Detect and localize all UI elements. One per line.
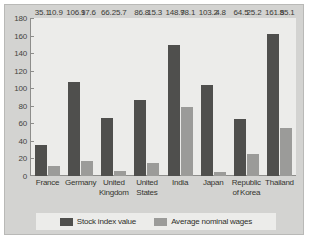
y-tick-label: 60 xyxy=(19,119,28,128)
bar-column: 5.7 xyxy=(114,18,126,176)
bar-column: 35.1 xyxy=(35,18,47,176)
y-tick-mark xyxy=(30,36,34,37)
y-tick-label: 20 xyxy=(19,154,28,163)
bar-column: 4.8 xyxy=(214,18,226,176)
bar-column: 86.8 xyxy=(134,18,146,176)
bar: 35.1 xyxy=(35,145,47,176)
y-tick-mark xyxy=(30,71,34,72)
legend-swatch xyxy=(154,218,167,226)
bar-column: 106.9 xyxy=(68,18,80,176)
y-tick-label: 100 xyxy=(14,84,27,93)
bar-column: 25.2 xyxy=(247,18,259,176)
y-tick-mark xyxy=(30,141,34,142)
bar-column: 64.5 xyxy=(234,18,246,176)
bar: 4.8 xyxy=(214,172,226,176)
bar-column: 15.3 xyxy=(147,18,159,176)
bar-value-label: 55.1 xyxy=(280,8,295,17)
bar: 64.5 xyxy=(234,119,246,176)
bar: 86.8 xyxy=(134,100,146,176)
bar-group: 103.24.8 xyxy=(197,18,230,176)
bar-column: 10.9 xyxy=(48,18,60,176)
bar-group: 106.917.6 xyxy=(64,18,97,176)
bar-value-label: 17.6 xyxy=(81,8,96,17)
y-tick-mark xyxy=(30,18,34,19)
x-axis: FranceGermanyUnitedKingdomUnitedStatesIn… xyxy=(31,178,296,197)
legend-swatch xyxy=(60,218,73,226)
bar-group: 161.855.1 xyxy=(263,18,296,176)
bar-group: 35.110.9 xyxy=(31,18,64,176)
y-tick-mark xyxy=(30,106,34,107)
bar: 103.2 xyxy=(201,85,213,176)
y-tick-label: 160 xyxy=(14,31,27,40)
bar-value-label: 25.2 xyxy=(247,8,262,17)
y-tick-mark xyxy=(30,158,34,159)
bar: 10.9 xyxy=(48,166,60,176)
bar-column: 148.9 xyxy=(168,18,180,176)
y-tick-label: 180 xyxy=(14,14,27,23)
y-tick-mark xyxy=(30,88,34,89)
legend-item[interactable]: Average nominal wages xyxy=(154,217,252,226)
legend-label: Average nominal wages xyxy=(171,217,252,226)
y-tick-label: 0 xyxy=(23,172,27,181)
legend-label: Stock index value xyxy=(77,217,136,226)
y-tick-label: 80 xyxy=(19,101,28,110)
bar: 148.9 xyxy=(168,45,180,176)
y-tick-label: 140 xyxy=(14,49,27,58)
bar-column: 17.6 xyxy=(81,18,93,176)
y-axis: 180160140120100806040200 xyxy=(5,18,27,176)
bar-column: 55.1 xyxy=(280,18,292,176)
chart-legend: Stock index valueAverage nominal wages xyxy=(36,213,276,230)
bar-groups: 35.110.9106.917.666.25.786.815.3148.978.… xyxy=(31,18,296,176)
bar-column: 161.8 xyxy=(267,18,279,176)
bar: 161.8 xyxy=(267,34,279,176)
y-tick-mark xyxy=(30,53,34,54)
bar-group: 86.815.3 xyxy=(130,18,163,176)
legend-item[interactable]: Stock index value xyxy=(60,217,136,226)
x-axis-category-label: UnitedStates xyxy=(130,178,163,197)
bar-value-label: 78.1 xyxy=(180,8,195,17)
bar: 5.7 xyxy=(114,171,126,176)
bar: 15.3 xyxy=(147,163,159,176)
y-tick-mark xyxy=(30,123,34,124)
bar-group: 148.978.1 xyxy=(164,18,197,176)
bar-group: 64.525.2 xyxy=(230,18,263,176)
bar-column: 66.2 xyxy=(101,18,113,176)
x-axis-category-label: Germany xyxy=(64,178,97,197)
bar: 55.1 xyxy=(280,128,292,176)
bar-value-label: 10.9 xyxy=(48,8,63,17)
bar-value-label: 4.8 xyxy=(215,8,226,17)
x-axis-category-label: France xyxy=(31,178,64,197)
x-axis-category-label: Japan xyxy=(197,178,230,197)
bar-group: 66.25.7 xyxy=(97,18,130,176)
bar: 17.6 xyxy=(81,161,93,176)
bar: 25.2 xyxy=(247,154,259,176)
y-tick-label: 40 xyxy=(19,136,28,145)
chart-figure: 180160140120100806040200 35.110.9106.917… xyxy=(4,4,304,235)
bar: 66.2 xyxy=(101,118,113,176)
bar: 106.9 xyxy=(68,82,80,176)
x-axis-category-label: Republicof Korea xyxy=(230,178,263,197)
x-axis-category-label: Thailand xyxy=(263,178,296,197)
bar: 78.1 xyxy=(181,107,193,176)
bar-column: 103.2 xyxy=(201,18,213,176)
y-tick-label: 120 xyxy=(14,66,27,75)
bar-value-label: 5.7 xyxy=(116,8,127,17)
bar-value-label: 66.2 xyxy=(101,8,116,17)
bar-value-label: 15.3 xyxy=(147,8,162,17)
x-axis-category-label: India xyxy=(164,178,197,197)
x-axis-category-label: UnitedKingdom xyxy=(97,178,130,197)
bar-column: 78.1 xyxy=(181,18,193,176)
